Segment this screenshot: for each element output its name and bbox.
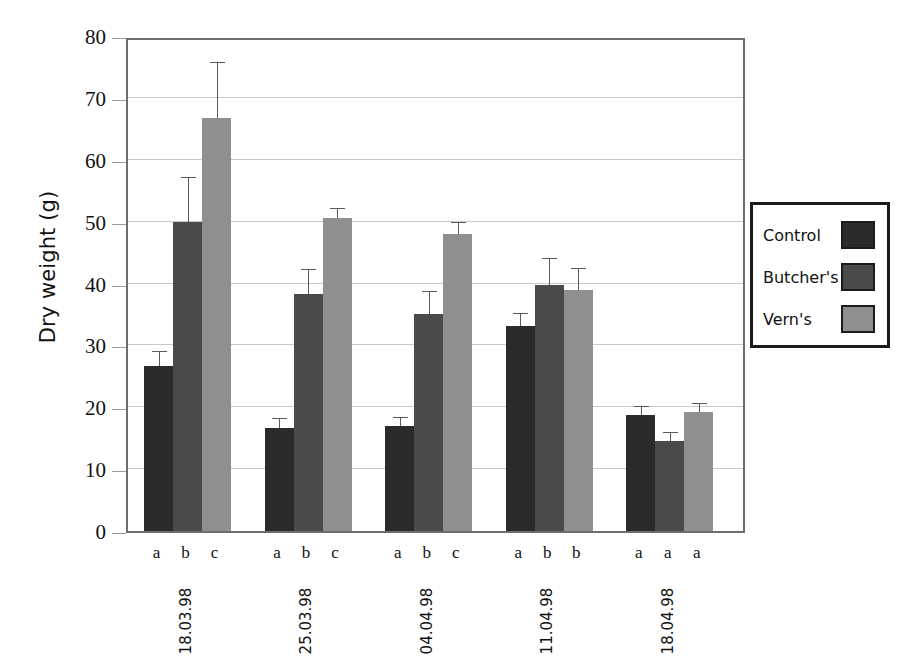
legend-item: Butcher's [753,257,893,297]
significance-letter: a [383,543,413,563]
bar [564,290,593,531]
x-axis-date-label: 04.04.98 [418,576,436,659]
error-bar [699,404,700,412]
bar [323,218,352,531]
error-bar-cap [422,291,437,292]
significance-letter: a [682,543,712,563]
error-bar-cap [542,258,557,259]
error-bar [308,270,309,294]
y-axis-ticks: 01020304050607080 [0,0,126,571]
y-tick-mark [112,38,126,39]
error-bar [641,407,642,414]
error-bar-cap [152,351,167,352]
error-bar [217,63,218,119]
error-bar [458,223,459,234]
bar [443,234,472,531]
bar [506,326,535,531]
bar [265,428,294,531]
error-bar [429,292,430,314]
significance-letter: b [171,543,201,563]
error-bar [400,418,401,426]
bar [626,415,655,531]
significance-letters-layer: abcabcabcabbaaa [126,543,745,569]
plot-area [126,38,745,533]
bar [202,118,231,531]
significance-letter: c [320,543,350,563]
y-tick-mark [112,224,126,225]
bar [144,366,173,531]
significance-letter: b [561,543,591,563]
y-tick-label: 60 [46,149,106,174]
legend-color-swatch [841,221,875,249]
legend-color-swatch [841,263,875,291]
significance-letter: a [262,543,292,563]
y-tick-label: 80 [46,25,106,50]
x-axis-date-label: 18.04.98 [659,576,677,659]
y-tick-mark [112,162,126,163]
bar [655,441,684,531]
error-bar-cap [513,313,528,314]
bar [535,285,564,531]
y-tick-label: 70 [46,87,106,112]
error-bar-cap [663,432,678,433]
significance-letter: b [532,543,562,563]
error-bar [578,269,579,289]
error-bar [520,314,521,326]
significance-letter: b [412,543,442,563]
y-tick-label: 30 [46,334,106,359]
error-bar [670,433,671,441]
significance-letter: b [291,543,321,563]
legend-item-label: Butcher's [763,268,838,287]
significance-letter: a [653,543,683,563]
bar [294,294,323,531]
bars-layer [128,40,743,531]
error-bar-cap [393,417,408,418]
y-tick-mark [112,100,126,101]
x-axis-date-label: 11.04.98 [538,576,556,659]
y-tick-label: 10 [46,458,106,483]
y-tick-label: 50 [46,211,106,236]
legend-item-label: Control [763,226,821,245]
error-bar [279,419,280,428]
error-bar-cap [181,177,196,178]
error-bar [159,352,160,367]
significance-letter: c [441,543,471,563]
error-bar [549,259,550,285]
significance-letter: a [142,543,172,563]
error-bar-cap [451,222,466,223]
bar-chart-figure: Dry weight (g) 01020304050607080 abcabca… [0,0,913,659]
y-tick-mark [112,471,126,472]
legend-color-swatch [841,305,875,333]
y-tick-label: 0 [46,520,106,545]
error-bar-cap [301,269,316,270]
significance-letter: a [624,543,654,563]
y-tick-label: 20 [46,396,106,421]
x-axis-date-label: 25.03.98 [297,576,315,659]
significance-letter: a [503,543,533,563]
error-bar-cap [571,268,586,269]
legend-item: Control [753,215,893,255]
error-bar-cap [634,406,649,407]
y-tick-mark [112,347,126,348]
bar [414,314,443,531]
error-bar [188,178,189,221]
error-bar-cap [272,418,287,419]
legend-item: Vern's [753,299,893,339]
error-bar [337,209,338,218]
y-tick-mark [112,409,126,410]
y-tick-mark [112,533,126,534]
error-bar-cap [692,403,707,404]
bar [385,426,414,531]
x-axis-date-labels: 18.03.9825.03.9804.04.9811.04.9818.04.98 [126,576,745,656]
y-tick-mark [112,286,126,287]
error-bar-cap [210,62,225,63]
significance-letter: c [200,543,230,563]
legend-item-label: Vern's [763,310,812,329]
y-tick-label: 40 [46,273,106,298]
bar [684,412,713,531]
legend: ControlButcher'sVern's [750,202,890,348]
x-axis-date-label: 18.03.98 [177,576,195,659]
error-bar-cap [330,208,345,209]
bar [173,222,202,531]
